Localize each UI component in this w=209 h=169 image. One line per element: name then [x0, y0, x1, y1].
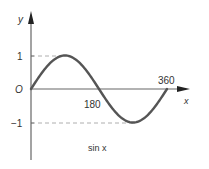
y-tick-label-1: 1 — [17, 51, 23, 62]
y-tick-label-minus1: −1 — [11, 118, 23, 129]
x-axis-label: x — [183, 96, 189, 106]
y-axis-arrow-icon — [28, 11, 34, 24]
origin-label: O — [15, 84, 23, 95]
y-axis-label: y — [17, 14, 24, 25]
x-tick-label-180: 180 — [84, 99, 101, 110]
curve-annotation: sin x — [88, 143, 107, 153]
sine-chart: y x O 1 −1 180 360 sin x — [0, 0, 209, 169]
x-axis-arrow-icon — [177, 86, 190, 92]
x-tick-label-360: 360 — [158, 75, 175, 86]
